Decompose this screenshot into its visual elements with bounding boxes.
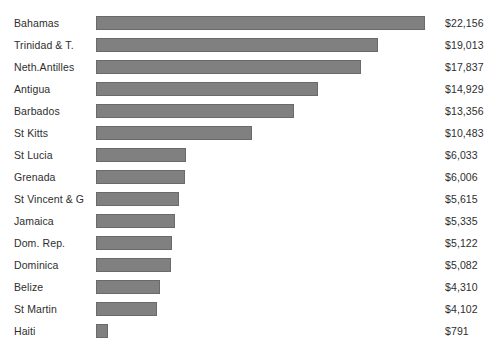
bar-track: [96, 144, 432, 166]
chart-row: St Lucia$6,033: [0, 144, 493, 166]
bar-track: [96, 12, 432, 34]
chart-row: Neth.Antilles$17,837: [0, 56, 493, 78]
chart-row: Grenada$6,006: [0, 166, 493, 188]
value-label: $791: [445, 320, 469, 342]
chart-row: St Vincent & G$5,615: [0, 188, 493, 210]
category-label: Trinidad & T.: [14, 34, 74, 56]
bar[interactable]: [96, 104, 294, 118]
bar-track: [96, 232, 432, 254]
bar[interactable]: [96, 236, 172, 250]
value-label: $5,082: [445, 254, 478, 276]
chart-rows: Bahamas$22,156Trinidad & T.$19,013Neth.A…: [0, 12, 493, 342]
bar[interactable]: [96, 60, 361, 74]
bar-chart: Bahamas$22,156Trinidad & T.$19,013Neth.A…: [0, 0, 493, 349]
bar-track: [96, 78, 432, 100]
value-label: $6,006: [445, 166, 478, 188]
chart-row: Dom. Rep.$5,122: [0, 232, 493, 254]
bar-track: [96, 122, 432, 144]
value-label: $10,483: [445, 122, 484, 144]
bar[interactable]: [96, 82, 318, 96]
category-label: St Vincent & G: [14, 188, 84, 210]
value-label: $17,837: [445, 56, 484, 78]
chart-row: Haiti$791: [0, 320, 493, 342]
category-label: Bahamas: [14, 12, 59, 34]
value-label: $14,929: [445, 78, 484, 100]
bar-track: [96, 320, 432, 342]
bar[interactable]: [96, 258, 171, 272]
category-label: Belize: [14, 276, 43, 298]
category-label: Dom. Rep.: [14, 232, 65, 254]
bar-track: [96, 188, 432, 210]
value-label: $19,013: [445, 34, 484, 56]
category-label: Barbados: [14, 100, 60, 122]
bar-track: [96, 276, 432, 298]
chart-row: Bahamas$22,156: [0, 12, 493, 34]
category-label: St Kitts: [14, 122, 48, 144]
chart-row: Barbados$13,356: [0, 100, 493, 122]
category-label: Grenada: [14, 166, 56, 188]
bar[interactable]: [96, 280, 160, 294]
category-label: Neth.Antilles: [14, 56, 74, 78]
bar-track: [96, 56, 432, 78]
bar[interactable]: [96, 192, 179, 206]
bar-track: [96, 254, 432, 276]
bar[interactable]: [96, 170, 185, 184]
bar-track: [96, 166, 432, 188]
bar-track: [96, 100, 432, 122]
chart-row: Trinidad & T.$19,013: [0, 34, 493, 56]
bar[interactable]: [96, 324, 108, 338]
value-label: $4,102: [445, 298, 478, 320]
category-label: Dominica: [14, 254, 59, 276]
chart-row: Jamaica$5,335: [0, 210, 493, 232]
category-label: St Martin: [14, 298, 57, 320]
category-label: Antigua: [14, 78, 50, 100]
value-label: $6,033: [445, 144, 478, 166]
bar-track: [96, 298, 432, 320]
value-label: $5,122: [445, 232, 478, 254]
value-label: $22,156: [445, 12, 484, 34]
bar[interactable]: [96, 214, 175, 228]
bar-track: [96, 210, 432, 232]
bar[interactable]: [96, 302, 157, 316]
category-label: Jamaica: [14, 210, 54, 232]
chart-row: Belize$4,310: [0, 276, 493, 298]
chart-row: St Martin$4,102: [0, 298, 493, 320]
bar[interactable]: [96, 16, 425, 30]
value-label: $5,335: [445, 210, 478, 232]
bar[interactable]: [96, 148, 186, 162]
bar-track: [96, 34, 432, 56]
value-label: $4,310: [445, 276, 478, 298]
category-label: Haiti: [14, 320, 36, 342]
value-label: $5,615: [445, 188, 478, 210]
bar[interactable]: [96, 126, 252, 140]
value-label: $13,356: [445, 100, 484, 122]
bar[interactable]: [96, 38, 378, 52]
category-label: St Lucia: [14, 144, 53, 166]
chart-row: St Kitts$10,483: [0, 122, 493, 144]
chart-row: Antigua$14,929: [0, 78, 493, 100]
chart-row: Dominica$5,082: [0, 254, 493, 276]
